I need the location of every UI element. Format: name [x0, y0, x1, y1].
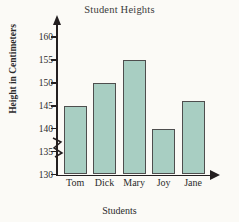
bar-series: [58, 24, 216, 174]
y-tick-label: 150: [39, 78, 53, 88]
x-axis-label: Students: [0, 205, 239, 216]
y-axis-label: Height in Centimeters: [8, 4, 18, 134]
bar: [123, 60, 146, 174]
bar-chart: Student Heights Height in Centimeters 13…: [0, 0, 239, 222]
x-tick-label: Jane: [184, 177, 202, 188]
x-tick-label: Mary: [123, 177, 145, 188]
x-axis-line: [56, 175, 212, 177]
y-tick-label: 140: [39, 124, 53, 134]
bar: [64, 106, 87, 175]
chart-title: Student Heights: [0, 4, 239, 15]
x-tick-label: Joy: [157, 177, 171, 188]
x-tick-label: Tom: [66, 177, 84, 188]
y-tick-label: 155: [39, 55, 53, 65]
y-tick-label: 160: [39, 32, 53, 42]
plot-area: 130135140145150155160 TomDickMaryJoyJane: [56, 24, 216, 176]
bar: [182, 101, 205, 174]
y-tick-label: 130: [39, 170, 53, 180]
bar: [93, 83, 116, 175]
x-tick-label: Dick: [95, 177, 114, 188]
y-tick-label: 145: [39, 101, 53, 111]
bar: [152, 129, 175, 175]
